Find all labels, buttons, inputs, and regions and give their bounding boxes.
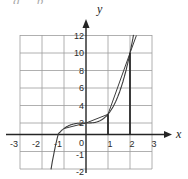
y-tick-label: 12 (74, 31, 84, 41)
y-tick-label: 8 (79, 66, 84, 76)
origin-label: 0 (79, 138, 84, 148)
y-axis-arrow-icon (83, 19, 90, 28)
function-graph: -3-2-112312108642-1-2 0 x y (0, 0, 188, 179)
x-tick-label: -3 (10, 139, 18, 149)
textbook-figure: g p -3-2-112312108642-1-2 0 x y (0, 0, 188, 179)
y-tick-label: 6 (79, 83, 84, 93)
x-axis-arrow-icon (164, 131, 172, 138)
x-tick-label: 2 (129, 139, 134, 149)
y-tick-label: -1 (76, 150, 84, 160)
x-axis-letter: x (175, 127, 182, 141)
y-tick-label: 10 (74, 48, 84, 58)
y-tick-label: 4 (79, 101, 84, 111)
x-tick-label: -2 (32, 139, 40, 149)
cubic-curve (51, 35, 134, 170)
y-axis-letter: y (96, 2, 103, 16)
y-tick-label: -2 (76, 167, 84, 177)
tick-labels: -3-2-112312108642-1-2 (10, 31, 157, 178)
x-tick-label: 1 (107, 139, 112, 149)
x-tick-label: 3 (151, 139, 156, 149)
